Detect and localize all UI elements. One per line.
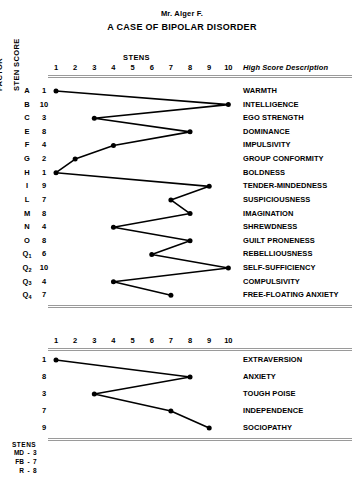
- secondary-data-point: [188, 375, 193, 380]
- secondary-data-point: [168, 409, 173, 414]
- legend-row: R-8: [6, 466, 43, 475]
- secondary-data-point: [92, 392, 97, 397]
- secondary-profile-plot: [0, 0, 364, 489]
- secondary-data-point: [207, 426, 212, 431]
- legend-value: 7: [33, 457, 43, 466]
- secondary-data-point: [54, 358, 59, 363]
- secondary-footer-rule: [48, 438, 352, 441]
- legend-title: STENS: [12, 441, 43, 448]
- legend-separator: -: [24, 466, 33, 475]
- secondary-profile-line: [56, 360, 209, 428]
- legend-value: 8: [33, 466, 43, 475]
- legend-separator: -: [24, 448, 33, 457]
- legend-row: FB-7: [6, 457, 43, 466]
- legend-key: MD: [6, 448, 24, 457]
- profile-sheet: Mr. Alger F. A CASE OF BIPOLAR DISORDER …: [0, 0, 364, 489]
- legend-row: MD-3: [6, 448, 43, 457]
- legend-value: 3: [33, 448, 43, 457]
- legend-table: MD-3FB-7R-8: [6, 448, 43, 475]
- legend-key: FB: [6, 457, 24, 466]
- legend-separator: -: [24, 457, 33, 466]
- stens-legend: STENS MD-3FB-7R-8: [6, 441, 43, 475]
- legend-key: R: [6, 466, 24, 475]
